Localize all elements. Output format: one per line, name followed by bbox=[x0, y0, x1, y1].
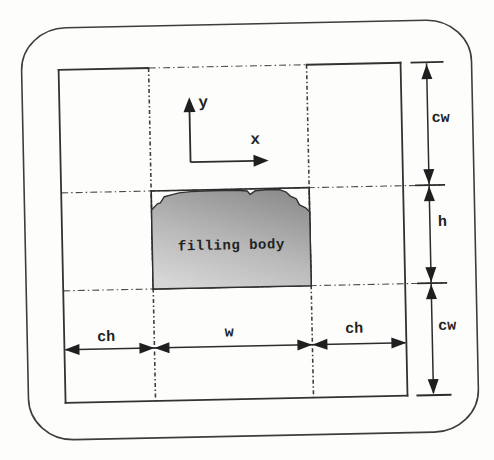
filling-body-diagram: filling body y x bbox=[0, 0, 494, 460]
dim-label-w: w bbox=[224, 324, 233, 341]
arrowhead-right-icon bbox=[391, 337, 406, 348]
dim-label-cw-top: cw bbox=[432, 110, 450, 127]
y-axis-label: y bbox=[198, 94, 208, 112]
dim-tick-top bbox=[411, 62, 444, 63]
inner-top-opening-dashline bbox=[149, 65, 307, 68]
coordinate-axes: y x bbox=[183, 93, 269, 169]
dim-label-h: h bbox=[438, 214, 447, 231]
arrowhead-right-icon bbox=[139, 342, 154, 353]
dim-label-cw-bottom: cw bbox=[438, 318, 456, 335]
arrowhead-left-icon bbox=[154, 342, 169, 353]
y-axis bbox=[189, 107, 190, 162]
arrowhead-up-icon bbox=[421, 64, 432, 79]
dim-label-ch-right: ch bbox=[345, 321, 363, 338]
y-axis-arrowhead-icon bbox=[183, 97, 195, 112]
arrowhead-up-icon bbox=[426, 284, 437, 299]
x-axis-label: x bbox=[250, 131, 260, 149]
dim-tick-lower-mid bbox=[417, 283, 447, 284]
arrowhead-up-icon bbox=[424, 186, 435, 201]
dim-label-ch-left: ch bbox=[97, 329, 115, 346]
dim-tick-bottom bbox=[417, 395, 452, 396]
arrowhead-left-icon bbox=[64, 344, 79, 355]
arrowhead-down-icon bbox=[423, 169, 434, 184]
arrowhead-left-icon bbox=[312, 339, 327, 350]
scanned-figure: filling body y x bbox=[0, 0, 494, 460]
arrowhead-down-icon bbox=[425, 267, 436, 282]
right-dimension-chain: cw h cw bbox=[410, 62, 458, 396]
filling-body-region: filling body bbox=[151, 189, 311, 289]
arrowhead-down-icon bbox=[428, 379, 439, 394]
scan-tilt-layer: filling body y x bbox=[0, 0, 494, 460]
dim-tick-upper-mid bbox=[415, 185, 445, 186]
filling-body-label: filling body bbox=[178, 236, 285, 254]
bottom-dimension-chain: ch w ch bbox=[64, 320, 407, 356]
arrowhead-right-icon bbox=[297, 339, 312, 350]
bottom-dimension-line bbox=[65, 343, 405, 350]
x-axis-arrowhead-icon bbox=[253, 155, 268, 167]
x-axis bbox=[191, 161, 255, 162]
